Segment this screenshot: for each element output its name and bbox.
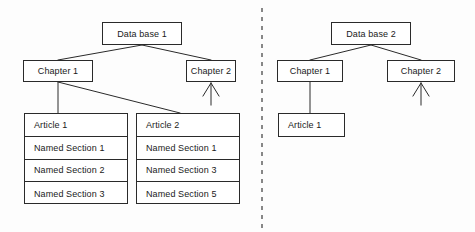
node-right-chapter-1[interactable]: Chapter 1 <box>277 60 343 82</box>
arrow-head-right-b <box>421 83 429 96</box>
diagram-canvas: Data base 1 Chapter 1 Chapter 2 Article … <box>0 0 475 232</box>
node-label: Chapter 2 <box>191 66 231 76</box>
node-label: Chapter 2 <box>401 66 441 76</box>
edge-db1-to-chapter1 <box>58 45 142 60</box>
article-stack-2: Article 2 Named Section 1 Named Section … <box>136 113 240 204</box>
edge-db1-to-chapter2 <box>142 45 211 60</box>
named-section-cell[interactable]: Named Section 1 <box>25 137 127 160</box>
node-database-2[interactable]: Data base 2 <box>331 22 411 45</box>
edge-db2-to-chapter2 <box>371 45 421 60</box>
node-left-chapter-1[interactable]: Chapter 1 <box>23 60 93 82</box>
node-left-chapter-2[interactable]: Chapter 2 <box>186 60 236 82</box>
node-right-article-1[interactable]: Article 1 <box>278 113 345 137</box>
named-section-cell[interactable]: Named Section 2 <box>25 160 127 183</box>
named-section-cell[interactable]: Named Section 5 <box>137 182 239 205</box>
node-label: Chapter 1 <box>38 66 78 76</box>
node-database-1[interactable]: Data base 1 <box>102 22 182 45</box>
arrow-head-right-a <box>413 83 421 96</box>
node-right-chapter-2[interactable]: Chapter 2 <box>387 60 455 82</box>
node-label: Article 1 <box>288 120 321 130</box>
named-section-cell[interactable]: Named Section 1 <box>137 137 239 160</box>
article-header-cell[interactable]: Article 2 <box>137 114 239 137</box>
arrow-head-left-b <box>211 83 219 96</box>
arrow-head-left-a <box>203 83 211 96</box>
node-label: Data base 2 <box>346 29 396 39</box>
edge-db2-to-chapter1 <box>310 45 371 60</box>
edge-chapter1-to-article2 <box>58 82 180 113</box>
node-label: Data base 1 <box>117 29 167 39</box>
article-stack-1: Article 1 Named Section 1 Named Section … <box>24 113 128 204</box>
named-section-cell[interactable]: Named Section 3 <box>25 182 127 205</box>
node-label: Chapter 1 <box>290 66 330 76</box>
named-section-cell[interactable]: Named Section 3 <box>137 160 239 183</box>
article-header-cell[interactable]: Article 1 <box>25 114 127 137</box>
